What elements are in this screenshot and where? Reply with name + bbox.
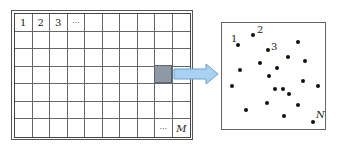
grid-cell [155,14,173,32]
grid-cell [155,102,173,120]
grid-cell [68,102,86,120]
point-dot [287,92,291,96]
grid-cell [15,119,33,137]
grid-cell [85,102,103,120]
point-dot [281,87,285,91]
grid-cell [15,67,33,85]
point-label: 1 [231,34,237,44]
grid-cell [120,49,138,67]
grid-cell [50,49,68,67]
point-dot [244,108,248,112]
grid-cell: ··· [68,14,86,32]
grid-cell [138,119,156,137]
point-dot [251,33,255,37]
grid-cell [120,102,138,120]
right-arrow-icon [173,63,219,85]
point-dot [296,40,300,44]
grid-cell [15,49,33,67]
grid-cell [33,119,51,137]
point-dot [258,61,262,65]
grid-cell [85,119,103,137]
grid-cell [103,67,121,85]
grid-cell [15,32,33,50]
grid-cell: 3 [50,14,68,32]
grid-cell [155,32,173,50]
grid-cell [173,14,191,32]
grid-cell [155,84,173,102]
highlighted-cell [154,65,172,83]
point-dot [265,101,269,105]
grid-cell [120,67,138,85]
grid-cell [173,84,191,102]
grid-cell [33,84,51,102]
grid-cell [50,32,68,50]
grid-cell [138,102,156,120]
point-dot [311,120,315,124]
grid-cell [33,67,51,85]
grid-cell [120,119,138,137]
points-panel: 123N [221,22,326,130]
point-dot [267,74,271,78]
grid-cell [120,14,138,32]
point-dot [282,114,286,118]
point-dot [296,103,300,107]
point-dot [238,68,242,72]
grid-cell [50,67,68,85]
grid-cell [15,102,33,120]
grid-cell [85,67,103,85]
grid-cell [85,14,103,32]
grid-cell [173,32,191,50]
grid-cell [85,49,103,67]
grid-cell [103,84,121,102]
grid-cell [50,102,68,120]
point-dot [286,55,290,59]
grid-cell [68,49,86,67]
grid-cell [50,84,68,102]
grid-cell [68,119,86,137]
grid-cell [85,84,103,102]
grid-cell: 2 [33,14,51,32]
point-label: 3 [271,42,277,52]
point-label: 2 [257,25,263,35]
grid-cell [85,32,103,50]
grid-cell [33,49,51,67]
point-dot [303,59,307,63]
point-dot [316,84,320,88]
point-label: N [316,110,325,120]
grid-cell [33,32,51,50]
point-dot [301,79,305,83]
point-dot [273,87,277,91]
grid-cell [15,84,33,102]
grid-cell [33,102,51,120]
grid-cell [138,67,156,85]
grid-cell [138,32,156,50]
grid-cell [103,32,121,50]
grid-cell: M [173,119,191,137]
point-dot [275,66,279,70]
grid-cell [173,102,191,120]
grid-cell: 1 [15,14,33,32]
point-dot [230,84,234,88]
grid-cell: ··· [155,119,173,137]
point-dot [266,48,270,52]
grid-cell [103,49,121,67]
grid-cell [68,32,86,50]
grid-cell [138,14,156,32]
grid-cell [138,84,156,102]
grid-cell [103,102,121,120]
grid-cell [103,14,121,32]
grid-cell [120,32,138,50]
grid-cell [50,119,68,137]
grid-cell [68,67,86,85]
grid-cell [103,119,121,137]
grid-cell [138,49,156,67]
grid-cell [68,84,86,102]
grid-cell [120,84,138,102]
